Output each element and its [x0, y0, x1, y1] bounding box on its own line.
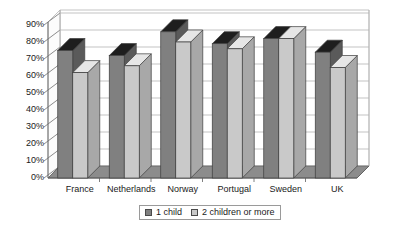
bar-norway-series2 — [176, 30, 203, 178]
legend-label: 2 children or more — [202, 208, 275, 217]
bar-portugal-series2 — [227, 37, 254, 178]
legend-swatch-icon — [191, 209, 198, 216]
y-axis-label: 10% — [2, 156, 44, 165]
y-axis-label: 80% — [2, 37, 44, 46]
y-axis-label: 60% — [2, 71, 44, 80]
y-axis-label: 50% — [2, 88, 44, 97]
y-axis-label: 70% — [2, 54, 44, 63]
bar-chart-graphic — [0, 0, 406, 233]
y-axis-labels: 90%80%70%60%50%40%30%20%10%0% — [0, 0, 44, 233]
y-axis-label: 90% — [2, 20, 44, 29]
y-axis-label: 0% — [2, 173, 44, 182]
x-axis-label-uk: UK — [297, 184, 377, 194]
legend-swatch-icon — [145, 209, 152, 216]
y-axis-label: 30% — [2, 122, 44, 131]
plot-area: 90%80%70%60%50%40%30%20%10%0% FranceNeth… — [0, 0, 406, 233]
y-axis-label: 40% — [2, 105, 44, 114]
legend-item-1[interactable]: 1 child — [145, 208, 182, 217]
chart-container: 90%80%70%60%50%40%30%20%10%0% FranceNeth… — [0, 0, 406, 233]
bar-france-series2 — [73, 61, 100, 178]
chart-legend: 1 child2 children or more — [139, 205, 281, 220]
legend-item-2[interactable]: 2 children or more — [191, 208, 275, 217]
y-axis-label: 20% — [2, 139, 44, 148]
legend-label: 1 child — [156, 208, 182, 217]
bar-sweden-series2 — [279, 27, 306, 178]
bar-netherlands-series2 — [124, 54, 151, 178]
bar-uk-series2 — [330, 56, 357, 179]
